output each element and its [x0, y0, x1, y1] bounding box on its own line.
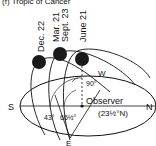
- label-east: E: [66, 139, 71, 146]
- observer-latitude: (23½°N): [98, 109, 128, 118]
- sun-equinox-icon: [53, 47, 67, 61]
- header-text: (f) Tropic of Cancer: [2, 0, 71, 6]
- label-north: N: [146, 102, 153, 112]
- sun-path-diagram: (f) Tropic of Cancer Dec. 22 Mar. 21 Sep…: [0, 0, 156, 146]
- observer-label: Observer: [86, 96, 123, 106]
- label-sept: Sept. 23: [60, 8, 70, 42]
- label-west: W: [98, 69, 106, 78]
- angle-label-dec: 43°: [44, 114, 55, 121]
- label-dec: Dec. 22: [36, 21, 46, 52]
- angle-arc-june: [72, 78, 82, 82]
- label-june: June 21: [78, 10, 88, 42]
- sun-june-icon: [75, 52, 89, 66]
- angle-label-june: 90°: [86, 80, 97, 87]
- angle-label-equinox: 66½°: [60, 114, 77, 121]
- sun-dec-icon: [32, 55, 46, 69]
- label-south: S: [8, 102, 14, 112]
- observer-point: [80, 104, 83, 107]
- angle-arc-equinox: [64, 90, 76, 106]
